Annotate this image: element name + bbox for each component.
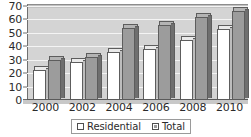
bar-residential-2000 bbox=[33, 70, 46, 100]
bar-front-face bbox=[122, 28, 135, 101]
bar-residential-2006 bbox=[143, 49, 156, 100]
bar-group bbox=[137, 4, 174, 100]
y-axis: 010203040506070 bbox=[0, 4, 22, 100]
bar-front-face bbox=[107, 52, 120, 100]
bar-total-2008 bbox=[195, 17, 208, 100]
bar-front-face bbox=[85, 57, 98, 100]
legend-item-residential: Residential bbox=[77, 122, 141, 132]
bar-total-2000 bbox=[48, 60, 61, 100]
legend-swatch-total bbox=[152, 123, 159, 130]
legend-label: Total bbox=[162, 122, 185, 132]
x-tick-label: 2002 bbox=[64, 101, 101, 115]
bar-group bbox=[64, 4, 101, 100]
bar-front-face bbox=[158, 25, 171, 100]
y-tick-label: 20 bbox=[0, 68, 22, 79]
x-axis-labels: 200020022004200620082010 bbox=[27, 101, 248, 115]
bar-front-face bbox=[143, 49, 156, 100]
plot-area bbox=[27, 4, 248, 100]
bar-total-2010 bbox=[232, 11, 245, 100]
bar-group bbox=[211, 4, 248, 100]
y-tick-label: 50 bbox=[0, 27, 22, 38]
x-tick-label: 2010 bbox=[211, 101, 248, 115]
bar-front-face bbox=[195, 17, 208, 100]
bar-residential-2002 bbox=[70, 62, 83, 100]
bar-front-face bbox=[180, 40, 193, 100]
x-tick-label: 2006 bbox=[137, 101, 174, 115]
y-tick-label: 40 bbox=[0, 41, 22, 52]
bar-residential-2010 bbox=[217, 29, 230, 100]
legend-swatch-residential bbox=[77, 123, 84, 130]
x-axis-line bbox=[27, 99, 248, 100]
y-tick-label: 0 bbox=[0, 95, 22, 106]
bar-residential-2008 bbox=[180, 40, 193, 100]
bar-total-2002 bbox=[85, 57, 98, 100]
bar-groups bbox=[27, 4, 248, 100]
bar-residential-2004 bbox=[107, 52, 120, 100]
bar-chart: 010203040506070 200020022004200620082010… bbox=[0, 0, 251, 137]
x-tick-label: 2008 bbox=[174, 101, 211, 115]
bar-side-face bbox=[245, 9, 249, 98]
bar-front-face bbox=[217, 29, 230, 100]
bar-front-face bbox=[48, 60, 61, 100]
x-tick-label: 2004 bbox=[101, 101, 138, 115]
bar-total-2006 bbox=[158, 25, 171, 100]
y-tick-label: 70 bbox=[0, 1, 22, 12]
y-tick-label: 10 bbox=[0, 81, 22, 92]
legend-item-total: Total bbox=[152, 122, 185, 132]
bar-front-face bbox=[33, 70, 46, 100]
bar-front-face bbox=[70, 62, 83, 100]
bar-group bbox=[27, 4, 64, 100]
bar-group bbox=[101, 4, 138, 100]
bar-group bbox=[174, 4, 211, 100]
x-tick-label: 2000 bbox=[27, 101, 64, 115]
y-tick-label: 60 bbox=[0, 14, 22, 25]
y-tick-label: 30 bbox=[0, 54, 22, 65]
bar-total-2004 bbox=[122, 28, 135, 101]
chart-legend: ResidentialTotal bbox=[71, 119, 191, 134]
bar-front-face bbox=[232, 11, 245, 100]
legend-label: Residential bbox=[87, 122, 141, 132]
